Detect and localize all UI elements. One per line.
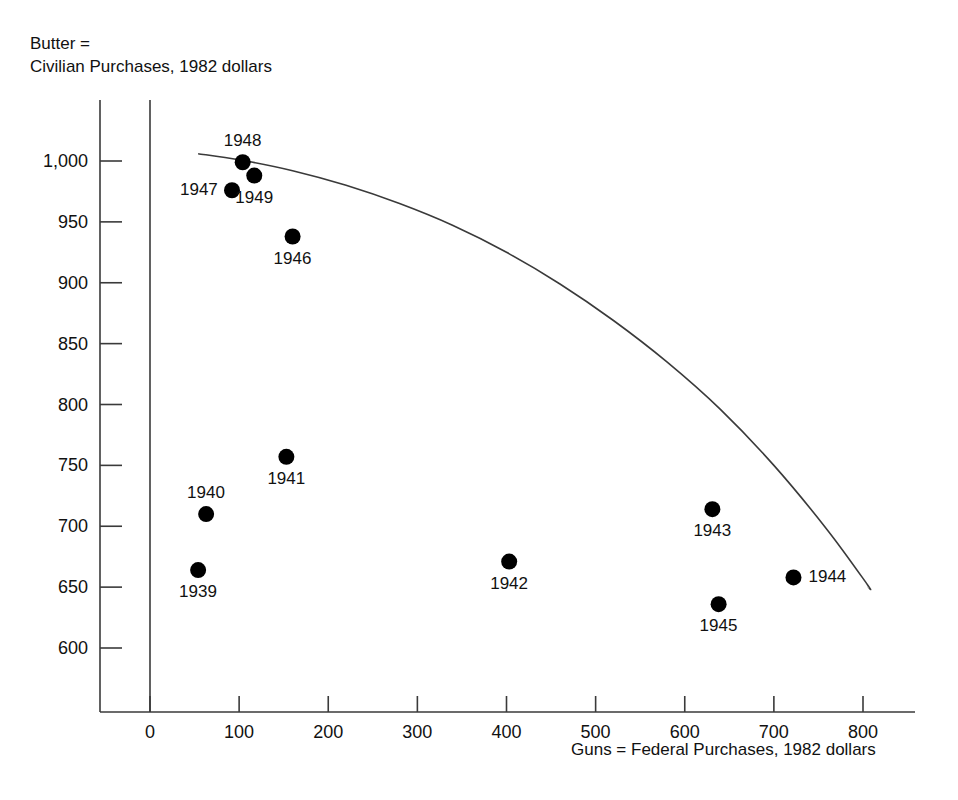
data-point-marker <box>278 449 294 465</box>
y-tick-label: 900 <box>0 272 88 293</box>
x-tick-label: 0 <box>145 722 155 743</box>
data-point-marker <box>198 506 214 522</box>
data-point-label: 1942 <box>490 574 528 594</box>
y-tick-label: 850 <box>0 333 88 354</box>
frontier-curve-path <box>198 154 871 590</box>
y-tick-label: 1,000 <box>0 151 88 172</box>
data-point-marker <box>704 501 720 517</box>
data-points <box>190 154 801 612</box>
data-point-marker <box>190 562 206 578</box>
data-point-label: 1939 <box>179 582 217 602</box>
data-point-marker <box>785 569 801 585</box>
data-point-label: 1947 <box>180 180 218 200</box>
y-tick-label: 600 <box>0 638 88 659</box>
y-tick-label: 950 <box>0 211 88 232</box>
x-tick-label: 200 <box>313 722 343 743</box>
data-point-marker <box>501 554 517 570</box>
axes <box>100 100 915 712</box>
plot-area <box>0 0 958 800</box>
x-tick-label: 100 <box>224 722 254 743</box>
x-tick-label: 600 <box>670 722 700 743</box>
data-point-label: 1940 <box>187 483 225 503</box>
data-point-marker <box>235 154 251 170</box>
data-point-marker <box>285 228 301 244</box>
data-point-label: 1945 <box>700 616 738 636</box>
data-point-label: 1946 <box>274 249 312 269</box>
data-point-label: 1941 <box>267 469 305 489</box>
y-tick-label: 800 <box>0 394 88 415</box>
y-tick-label: 650 <box>0 577 88 598</box>
x-tick-label: 400 <box>491 722 521 743</box>
data-point-marker <box>246 168 262 184</box>
chart-container: Butter = Civilian Purchases, 1982 dollar… <box>0 0 958 800</box>
data-point-label: 1948 <box>224 131 262 151</box>
x-tick-label: 500 <box>581 722 611 743</box>
x-tick-label: 800 <box>848 722 878 743</box>
data-point-label: 1943 <box>693 521 731 541</box>
data-point-label: 1949 <box>235 188 273 208</box>
x-tick-label: 700 <box>759 722 789 743</box>
data-point-marker <box>711 596 727 612</box>
y-tick-label: 750 <box>0 455 88 476</box>
y-tick-label: 700 <box>0 516 88 537</box>
x-tick-label: 300 <box>402 722 432 743</box>
frontier-curve <box>198 154 871 590</box>
data-point-label: 1944 <box>809 567 847 587</box>
